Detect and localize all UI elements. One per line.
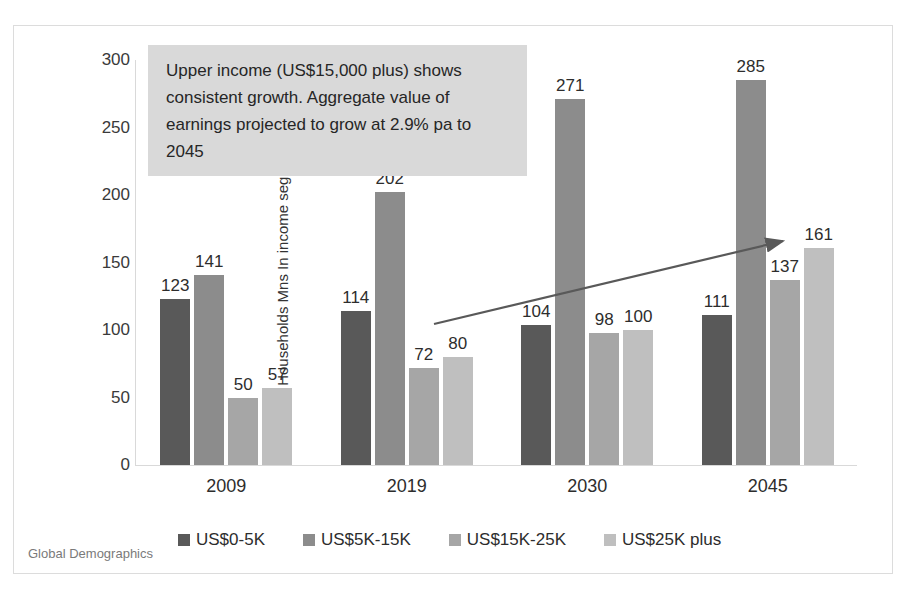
y-axis-tick-label: 100 (102, 320, 130, 340)
bar-slot: 285 (736, 60, 766, 465)
bar[interactable] (194, 275, 224, 465)
chart-root: Households Mns In income segment 0501001… (0, 0, 909, 600)
bar[interactable] (589, 333, 619, 465)
bar[interactable] (521, 325, 551, 465)
bar-value-label: 80 (448, 334, 467, 354)
bar[interactable] (736, 80, 766, 465)
legend-swatch (303, 534, 315, 546)
y-axis-tick-label: 200 (102, 185, 130, 205)
bar-value-label: 98 (595, 310, 614, 330)
bar-value-label: 161 (805, 225, 833, 245)
x-axis-labels: 2009201920302045 (136, 476, 858, 504)
legend-swatch (604, 534, 616, 546)
legend-swatch (449, 534, 461, 546)
bar[interactable] (443, 357, 473, 465)
x-axis-tick-label: 2019 (387, 476, 427, 497)
legend-item[interactable]: US$0-5K (178, 530, 265, 550)
bar-value-label: 123 (161, 276, 189, 296)
bar[interactable] (804, 248, 834, 465)
y-axis-tick-label: 0 (121, 455, 130, 475)
bar-value-label: 271 (556, 76, 584, 96)
legend: US$0-5KUS$5K-15KUS$15K-25KUS$25K plus (178, 529, 721, 551)
bar-slot: 161 (804, 60, 834, 465)
bar[interactable] (262, 388, 292, 465)
legend-label: US$15K-25K (467, 530, 566, 550)
bar-value-label: 100 (624, 307, 652, 327)
annotation-callout: Upper income (US$15,000 plus) shows cons… (148, 45, 527, 176)
y-axis-ticks: 050100150200250300 (82, 60, 130, 466)
bar-slot: 137 (770, 60, 800, 465)
bar-slot: 271 (555, 60, 585, 465)
bar[interactable] (228, 398, 258, 466)
legend-item[interactable]: US$15K-25K (449, 530, 566, 550)
bar-value-label: 141 (195, 252, 223, 272)
legend-label: US$5K-15K (321, 530, 411, 550)
bar[interactable] (160, 299, 190, 465)
bar-slot: 100 (623, 60, 653, 465)
bar[interactable] (770, 280, 800, 465)
bar-value-label: 114 (342, 288, 369, 308)
bar-value-label: 104 (522, 302, 550, 322)
x-axis-tick-label: 2030 (567, 476, 607, 497)
y-axis-tick-label: 300 (102, 50, 130, 70)
bar[interactable] (375, 192, 405, 465)
y-axis-tick-label: 250 (102, 118, 130, 138)
bar-value-label: 137 (771, 257, 799, 277)
annotation-callout-text: Upper income (US$15,000 plus) shows cons… (166, 57, 511, 165)
bar-value-label: 57 (268, 365, 287, 385)
legend-label: US$0-5K (196, 530, 265, 550)
bar-value-label: 111 (704, 292, 730, 312)
x-axis-tick-label: 2045 (748, 476, 788, 497)
bar-value-label: 285 (737, 57, 765, 77)
bar[interactable] (341, 311, 371, 465)
bar[interactable] (623, 330, 653, 465)
bar[interactable] (555, 99, 585, 465)
bar-value-label: 72 (414, 345, 433, 365)
x-axis-tick-label: 2009 (206, 476, 246, 497)
legend-swatch (178, 534, 190, 546)
x-axis-baseline (135, 465, 857, 466)
bar-slot: 98 (589, 60, 619, 465)
bar-value-label: 50 (234, 375, 253, 395)
legend-label: US$25K plus (622, 530, 721, 550)
bar[interactable] (409, 368, 439, 465)
source-note: Global Demographics (28, 546, 153, 561)
legend-item[interactable]: US$25K plus (604, 530, 721, 550)
bar[interactable] (702, 315, 732, 465)
legend-item[interactable]: US$5K-15K (303, 530, 411, 550)
bar-group: 111285137161 (702, 60, 834, 465)
y-axis-tick-label: 150 (102, 253, 130, 273)
bar-slot: 111 (702, 60, 732, 465)
y-axis-tick-label: 50 (111, 388, 130, 408)
bar-group: 10427198100 (521, 60, 653, 465)
